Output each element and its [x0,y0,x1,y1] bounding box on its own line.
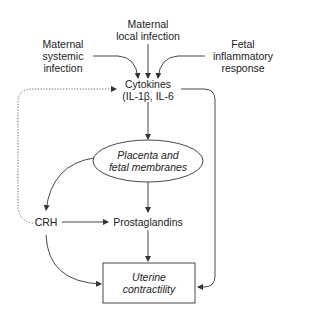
node-text: (IL-1β, IL-6 [113,90,183,102]
node-text: Cytokines [113,78,183,90]
node-text: contractility [103,283,195,295]
node-text: Maternal [35,38,91,50]
node-text: Prostaglandins [113,216,182,228]
node-prostaglandins: Prostaglandins [108,216,188,228]
node-maternal-systemic-infection: Maternal systemic infection [35,38,91,74]
node-text: Maternal [103,18,193,30]
node-placenta-fetal-membranes: Placenta and fetal membranes [98,149,198,173]
node-text: Placenta and [98,149,198,161]
node-cytokines: Cytokines (IL-1β, IL-6 [113,78,183,102]
node-text: Fetal [207,38,279,50]
node-text: local infection [103,30,193,42]
edge-systemic-to-cytokines [93,56,138,78]
node-text: CRH [35,216,58,228]
node-crh: CRH [31,216,61,228]
node-text: Uterine [103,271,195,283]
node-maternal-local-infection: Maternal local infection [103,18,193,42]
edge-fetal-to-cytokines [158,56,205,78]
edge-crh-to-uterine [46,235,101,284]
node-text: response [207,62,279,74]
node-text: infection [35,62,91,74]
node-text: systemic [35,50,91,62]
edge-placenta-to-crh [46,158,94,210]
node-fetal-inflammatory-response: Fetal inflammatory response [207,38,279,74]
node-text: fetal membranes [98,161,198,173]
edge-cytokines-to-uterine [181,89,215,287]
node-text: inflammatory [207,50,279,62]
node-uterine-contractility: Uterine contractility [103,271,195,295]
